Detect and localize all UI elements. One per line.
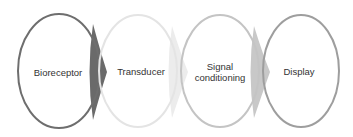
stage-label-line-2: conditioning	[195, 72, 246, 83]
stage-label-signal-conditioning: Signal conditioning	[195, 61, 246, 83]
stage-label-display: Display	[283, 66, 314, 77]
stage-label-transducer: Transducer	[117, 66, 165, 77]
stage-label-line-1: Signal	[195, 61, 246, 72]
stage-label-bioreceptor: Bioreceptor	[34, 67, 83, 78]
